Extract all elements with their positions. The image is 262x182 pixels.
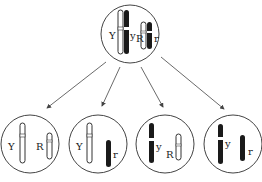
arrow-1 — [47, 62, 106, 108]
gamete-4-label-b: r — [248, 146, 253, 157]
gamete-cell-YR: Y R — [1, 115, 59, 173]
arrow-4 — [161, 57, 224, 109]
chromosome-Y — [118, 10, 123, 54]
label-r: r — [154, 33, 159, 44]
label-R: R — [136, 33, 144, 44]
gamete-2-label-a: Y — [75, 141, 83, 152]
arrow-2 — [102, 67, 120, 106]
gamete-2-label-b: r — [113, 149, 118, 160]
gamete-1-label-b: R — [36, 141, 44, 152]
chromosome-r — [147, 22, 152, 49]
label-Y: Y — [108, 30, 116, 41]
gamete-cell-Yr: Y r — [69, 115, 127, 173]
gamete-3-label-b: R — [166, 149, 174, 160]
gamete-cell-yr: y r — [204, 115, 262, 173]
meiosis-diagram: Y y R r Y R Y r y R — [0, 0, 262, 182]
gamete-3-label-a: y — [155, 141, 162, 152]
chromosome-y — [124, 10, 129, 54]
arrows — [47, 57, 224, 109]
arrow-3 — [141, 67, 163, 107]
label-y: y — [129, 30, 136, 41]
gamete-1-label-a: Y — [7, 141, 15, 152]
gamete-cell-yR: y R — [136, 115, 194, 173]
parent-cell: Y y R r — [101, 5, 159, 63]
gamete-4-label-a: y — [224, 138, 231, 149]
